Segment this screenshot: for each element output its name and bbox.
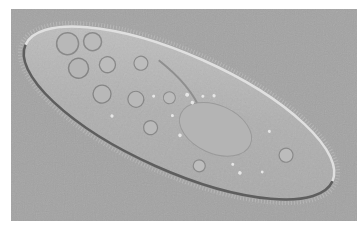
micrograph-frame: [11, 9, 357, 221]
paramecium-image: [11, 9, 357, 221]
